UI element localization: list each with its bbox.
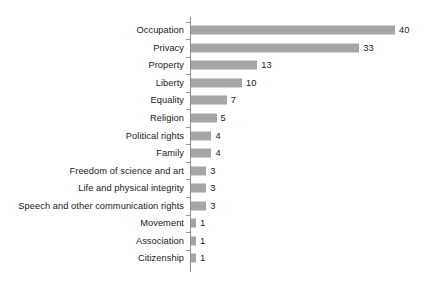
bar	[191, 61, 257, 70]
category-label: Property	[0, 60, 184, 71]
axis-tick	[186, 74, 190, 75]
category-label: Family	[0, 148, 184, 159]
bar-group: 1	[191, 236, 205, 245]
bar-group: 3	[191, 201, 215, 210]
bar-row: Religion5	[0, 109, 431, 127]
bar-group: 10	[191, 78, 256, 87]
bar-value-label: 10	[246, 78, 256, 87]
bar-value-label: 1	[200, 236, 205, 245]
bar-group: 5	[191, 114, 226, 123]
bar-group: 4	[191, 149, 221, 158]
bar-row: Freedom of science and art3	[0, 162, 431, 180]
category-label: Religion	[0, 113, 184, 124]
bar	[191, 96, 227, 105]
bar-value-label: 5	[221, 114, 226, 123]
axis-tick	[186, 109, 190, 110]
bar-value-label: 3	[210, 184, 215, 193]
axis-tick	[186, 250, 190, 251]
bar-value-label: 7	[231, 96, 236, 105]
bar-row: Property13	[0, 57, 431, 75]
category-label: Occupation	[0, 25, 184, 36]
category-label: Liberty	[0, 77, 184, 88]
category-label: Privacy	[0, 42, 184, 53]
category-label: Citizenship	[0, 253, 184, 264]
bar-group: 13	[191, 61, 272, 70]
bar-value-label: 33	[363, 43, 373, 52]
bar-group: 3	[191, 166, 215, 175]
bar-group: 33	[191, 43, 374, 52]
bar-value-label: 4	[215, 131, 220, 140]
category-label: Freedom of science and art	[0, 165, 184, 176]
axis-tick	[186, 144, 190, 145]
bar	[191, 219, 196, 228]
bar-group: 7	[191, 96, 236, 105]
bar-group: 40	[191, 26, 409, 35]
bar-value-label: 1	[200, 254, 205, 263]
bar-row: Life and physical integrity3	[0, 179, 431, 197]
bar-row: Political rights4	[0, 127, 431, 145]
category-label: Association	[0, 235, 184, 246]
bar-rows: Occupation40Privacy33Property13Liberty10…	[0, 0, 431, 281]
bar	[191, 43, 359, 52]
bar-group: 4	[191, 131, 221, 140]
bar-value-label: 13	[261, 61, 271, 70]
bar-row: Citizenship1	[0, 250, 431, 268]
bar-group: 3	[191, 184, 215, 193]
bar-value-label: 3	[210, 201, 215, 210]
bar	[191, 149, 211, 158]
axis-tick	[186, 162, 190, 163]
axis-tick	[186, 127, 190, 128]
category-label: Political rights	[0, 130, 184, 141]
bar-row: Liberty10	[0, 74, 431, 92]
bar-value-label: 1	[200, 219, 205, 228]
bar	[191, 131, 211, 140]
bar-row: Speech and other communication rights3	[0, 197, 431, 215]
bar	[191, 166, 206, 175]
category-label: Movement	[0, 218, 184, 229]
bar	[191, 201, 206, 210]
bar-row: Privacy33	[0, 39, 431, 57]
bar-row: Movement1	[0, 215, 431, 233]
axis-tick	[186, 215, 190, 216]
category-label: Speech and other communication rights	[0, 200, 184, 211]
bar	[191, 184, 206, 193]
axis-tick	[186, 232, 190, 233]
category-label: Life and physical integrity	[0, 183, 184, 194]
bar	[191, 254, 196, 263]
bar-group: 1	[191, 219, 205, 228]
bar	[191, 114, 217, 123]
bar-value-label: 3	[210, 166, 215, 175]
category-label: Equality	[0, 95, 184, 106]
axis-tick	[186, 92, 190, 93]
bar	[191, 236, 196, 245]
axis-tick	[186, 179, 190, 180]
bar-row: Association1	[0, 232, 431, 250]
bar-row: Family4	[0, 144, 431, 162]
bar-row: Equality7	[0, 92, 431, 110]
bar-group: 1	[191, 254, 205, 263]
axis-tick	[186, 22, 190, 23]
bar-row: Occupation40	[0, 22, 431, 40]
bar	[191, 78, 242, 87]
bar	[191, 26, 395, 35]
axis-tick	[186, 39, 190, 40]
bar-value-label: 40	[399, 26, 409, 35]
axis-tick	[186, 197, 190, 198]
bar-chart: Occupation40Privacy33Property13Liberty10…	[0, 0, 431, 281]
bar-value-label: 4	[215, 149, 220, 158]
axis-tick	[186, 57, 190, 58]
